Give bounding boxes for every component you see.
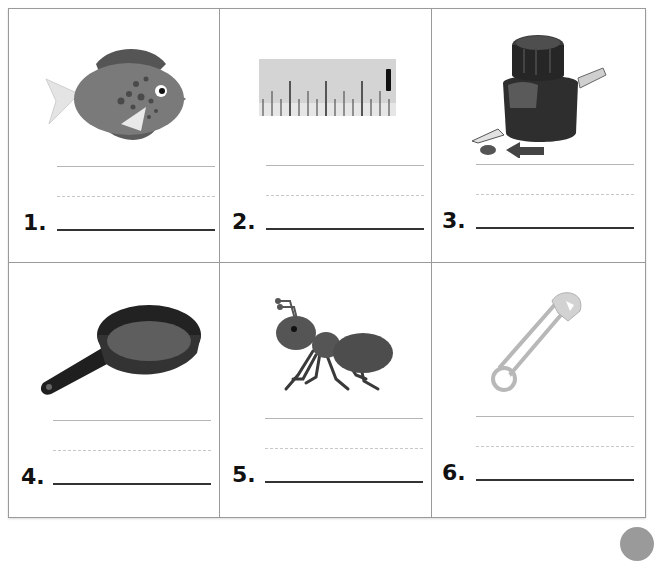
answer-line[interactable] (476, 227, 634, 229)
page-corner-circle (620, 527, 654, 561)
fish-icon (41, 39, 191, 154)
frying-pan-icon (37, 293, 207, 403)
answer-line[interactable] (476, 479, 634, 481)
guide-line-top (53, 420, 211, 421)
guide-line-dashed (476, 194, 634, 195)
guide-line-top (266, 165, 424, 166)
ink-bottle-icon (468, 23, 608, 158)
guide-line-dashed (265, 448, 423, 449)
answer-line[interactable] (266, 228, 424, 230)
item-cell-1: 1. (9, 9, 220, 263)
answer-line[interactable] (53, 483, 211, 485)
guide-line-dashed (53, 450, 211, 451)
guide-line-dashed (57, 196, 215, 197)
item-cell-6: 6. (432, 263, 645, 517)
guide-line-dashed (476, 446, 634, 447)
ant-icon (268, 293, 398, 403)
item-number: 3. (442, 210, 466, 232)
item-cell-4: 4. (9, 263, 220, 517)
answer-line[interactable] (265, 481, 423, 483)
item-number: 4. (21, 466, 45, 488)
item-cell-3: 3. (432, 9, 645, 263)
item-cell-2: 2. (220, 9, 432, 263)
item-number: 2. (232, 211, 256, 233)
item-number: 1. (23, 212, 47, 234)
guide-line-top (57, 166, 215, 167)
item-cell-5: 5. (220, 263, 432, 517)
guide-line-top (476, 416, 634, 417)
guide-line-top (476, 164, 634, 165)
ruler-icon (259, 59, 397, 117)
worksheet-grid: 1. 2. (8, 8, 646, 518)
safety-pin-icon (488, 287, 588, 397)
answer-line[interactable] (57, 229, 215, 231)
guide-line-dashed (266, 195, 424, 196)
guide-line-top (265, 418, 423, 419)
item-number: 6. (442, 462, 466, 484)
item-number: 5. (232, 464, 256, 486)
